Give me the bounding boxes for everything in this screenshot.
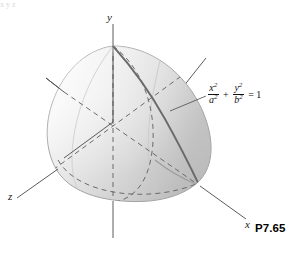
- equation-term-1-den-exponent: 2: [214, 92, 218, 100]
- axis-label-x: x: [245, 219, 250, 230]
- problem-number-caption: P7.65: [255, 222, 286, 234]
- ellipse-equation-label: x2 a2 + y2 b2 = 1: [208, 83, 263, 105]
- equation-term-2-num-exponent: 2: [239, 81, 243, 89]
- figure-container: x y z: [0, 0, 302, 258]
- z-axis-negative-ray: [17, 169, 58, 198]
- equation-term-1: x2 a2: [208, 83, 219, 105]
- equation-term-1-num-exponent: 2: [214, 81, 218, 89]
- solid-body: [47, 46, 211, 202]
- equation-equals: = 1: [246, 89, 263, 100]
- axis-label-y: y: [107, 12, 112, 23]
- solid-of-revolution-diagram: [0, 0, 302, 258]
- x-axis-positive-ray: [200, 186, 246, 219]
- equation-term-2: y2 b2: [233, 83, 244, 105]
- equation-term-1-denominator: a2: [208, 95, 219, 106]
- equation-term-2-den-exponent: 2: [239, 92, 243, 100]
- equation-operator: +: [221, 89, 231, 100]
- axis-label-z: z: [8, 191, 12, 202]
- equation-term-2-denominator: b2: [233, 95, 244, 106]
- solid-body-rim-shade: [47, 46, 211, 202]
